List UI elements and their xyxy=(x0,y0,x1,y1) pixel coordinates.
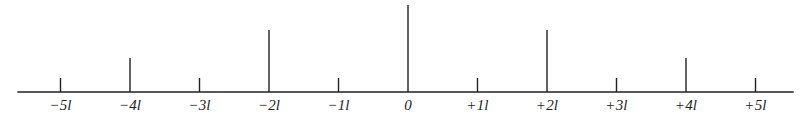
tick-label: −3l xyxy=(188,98,210,113)
tick-label: −5l xyxy=(49,98,71,113)
stick-diagram-figure: −5l−4l−3l−2l−1l0+1l+2l+3l+4l+5l xyxy=(0,0,800,129)
tick-label: −1l xyxy=(327,98,349,113)
tick-label: +5l xyxy=(744,98,766,113)
tick-label: +4l xyxy=(675,98,697,113)
stem-lines-group xyxy=(61,5,756,92)
tick-label: −2l xyxy=(258,98,280,113)
tick-label: +3l xyxy=(605,98,627,113)
tick-label: 0 xyxy=(404,98,412,113)
tick-label: +2l xyxy=(536,98,558,113)
tick-label: −4l xyxy=(119,98,141,113)
tick-label: +1l xyxy=(466,98,488,113)
